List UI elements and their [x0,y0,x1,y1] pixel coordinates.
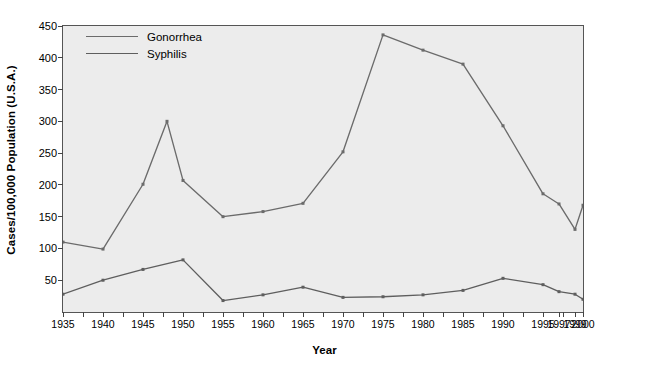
data-point-marker [142,183,145,186]
legend-item-gonorrhea: Gonorrhea [86,28,202,45]
y-tick-label: 50 [17,274,57,286]
data-point-marker [63,293,65,296]
x-tick-mark [283,312,284,317]
data-point-marker [222,299,225,302]
y-tick-mark [58,184,63,185]
plot-area [62,25,584,313]
x-tick-mark [323,312,324,317]
y-tick-mark [58,248,63,249]
y-tick-mark [58,89,63,90]
x-tick-label: 1955 [211,318,234,330]
data-point-marker [558,202,561,205]
x-tick-mark [343,312,344,317]
x-tick-mark [583,312,584,317]
x-tick-label: 1945 [131,318,154,330]
data-point-marker [502,124,505,127]
series-line-gonorrhea [63,35,583,249]
x-tick-mark [83,312,84,317]
data-point-marker [502,277,505,280]
y-tick-mark [58,26,63,27]
legend-item-syphilis: Syphilis [86,45,202,62]
x-tick-mark [443,312,444,317]
data-point-marker [582,204,584,207]
x-tick-label: 1950 [171,318,194,330]
x-tick-mark [143,312,144,317]
y-tick-label: 100 [17,242,57,254]
data-point-marker [462,63,465,66]
x-tick-mark [103,312,104,317]
data-point-marker [102,279,105,282]
y-tick-mark [58,57,63,58]
x-tick-label: 1980 [411,318,434,330]
x-tick-mark [503,312,504,317]
legend-label-gonorrhea: Gonorrhea [147,31,202,43]
x-tick-mark [423,312,424,317]
x-tick-mark [223,312,224,317]
x-tick-label: 1975 [371,318,394,330]
y-tick-mark [58,153,63,154]
data-point-marker [422,49,425,52]
data-point-marker [558,290,561,293]
y-tick-label: 300 [17,115,57,127]
legend-line-icon-gonorrhea [86,36,138,37]
x-tick-label: 1990 [491,318,514,330]
y-tick-label: 350 [17,84,57,96]
y-axis-label: Cases/100,000 Population (U.S.A.) [5,65,17,254]
x-tick-mark [63,312,64,317]
data-point-marker [582,298,584,301]
data-point-marker [166,120,169,123]
data-point-marker [382,295,385,298]
x-tick-mark [363,312,364,317]
x-tick-mark [243,312,244,317]
data-point-marker [574,228,577,231]
series-line-syphilis [63,260,583,301]
data-point-marker [462,289,465,292]
legend-line-icon-syphilis [86,53,138,54]
x-tick-label: 2000 [571,318,594,330]
x-tick-mark [575,312,576,317]
x-tick-mark [183,312,184,317]
y-tick-label: 400 [17,52,57,64]
data-point-marker [222,215,225,218]
data-point-marker [63,241,65,244]
data-point-marker [422,293,425,296]
x-tick-mark [563,312,564,317]
x-tick-mark [383,312,384,317]
legend-label-syphilis: Syphilis [147,48,187,60]
x-tick-mark [303,312,304,317]
y-axis-label-container: Cases/100,000 Population (U.S.A.) [0,0,22,320]
data-point-marker [102,248,105,251]
y-tick-mark [58,280,63,281]
x-tick-mark [163,312,164,317]
y-tick-label: 250 [17,147,57,159]
data-point-marker [542,192,545,195]
data-point-marker [262,210,265,213]
x-tick-label: 1985 [451,318,474,330]
data-point-marker [182,179,185,182]
x-tick-label: 1940 [91,318,114,330]
data-point-marker [382,33,385,36]
data-point-marker [342,150,345,153]
data-point-marker [542,283,545,286]
x-tick-mark [123,312,124,317]
y-tick-label: 150 [17,211,57,223]
chart-legend: Gonorrhea Syphilis [86,28,202,62]
series-canvas [63,26,583,312]
x-tick-label: 1960 [251,318,274,330]
y-tick-mark [58,216,63,217]
x-tick-mark [263,312,264,317]
x-tick-label: 1965 [291,318,314,330]
line-chart: Cases/100,000 Population (U.S.A.) 501001… [0,0,649,367]
x-tick-label: 1935 [51,318,74,330]
data-point-marker [142,268,145,271]
x-tick-mark [559,312,560,317]
data-point-marker [342,296,345,299]
data-point-marker [182,258,185,261]
x-tick-mark [403,312,404,317]
data-point-marker [262,293,265,296]
x-tick-mark [203,312,204,317]
x-tick-mark [543,312,544,317]
data-point-marker [574,293,577,296]
y-tick-mark [58,121,63,122]
data-point-marker [302,286,305,289]
